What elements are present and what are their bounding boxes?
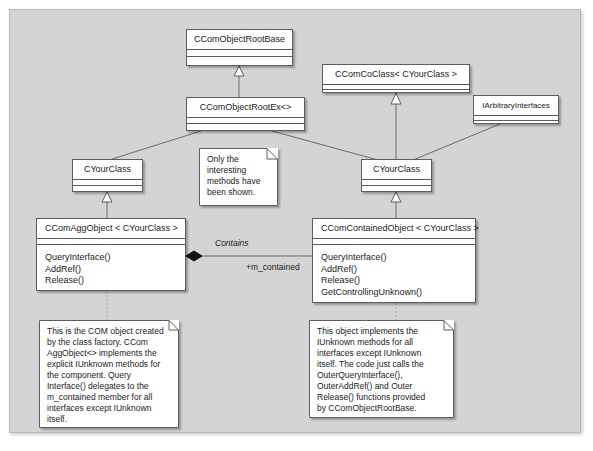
note-line: Only the [207,154,271,165]
note-line: AggObject<> implements the [47,348,172,359]
note-line: by the class factory. CCom [47,337,172,348]
note-ccomaggobject-description[interactable]: This is the COM object created by the cl… [39,320,179,428]
class-name: IArbitraryInterfaces [474,96,558,115]
class-name: CComObjectRootBase [187,30,292,49]
operation: Release() [45,275,177,287]
class-name: CYourClass [73,160,142,179]
note-line: methods have [207,176,271,187]
note-text: This is the COM object created by the cl… [39,320,179,431]
class-box-iarbitraryinterfaces[interactable]: IArbitraryInterfaces [473,95,559,124]
operation: QueryInterface() [45,252,177,264]
class-name: CComContainedObject < CYourClass > [313,219,475,238]
class-box-ccomobjectrootex[interactable]: CComObjectRootEx<> [186,97,305,131]
association-name-label: Contains [215,238,249,248]
class-operations: QueryInterface() AddRef() Release() GetC… [313,245,475,305]
note-line: the component. Query [47,370,172,381]
operation: GetControllingUnknown() [321,287,467,299]
class-box-ccomaggobject[interactable]: CComAggObject < CYourClass > QueryInterf… [36,218,186,291]
class-separator [323,89,469,90]
note-line: explicit IUnknown methods for [47,359,172,370]
note-line: OuterAddRef() and Outer [317,381,447,392]
class-box-cyourclass-right[interactable]: CYourClass [361,159,432,192]
note-line: been shown. [207,187,271,198]
association-role-label: +m_contained [246,262,300,272]
note-line: interesting [207,165,271,176]
class-separator [187,123,304,124]
operation: AddRef() [321,264,467,276]
note-line: interfaces except IUnknown [317,348,447,359]
note-line: by CComObjectRootBase. [317,403,447,414]
class-separator [362,185,431,186]
note-only-interesting-methods[interactable]: Only the interesting methods have been s… [199,148,278,206]
class-name: CComObjectRootEx<> [187,98,304,117]
note-line: interfaces except IUnknown [47,403,172,414]
class-box-ccomcoclass[interactable]: CComCoClass< CYourClass > [322,64,470,93]
note-line: Release() functions provided [317,392,447,403]
note-line: OuterQueryInterface(), [317,370,447,381]
class-box-ccomobjectrootbase[interactable]: CComObjectRootBase [186,29,293,66]
operation: Release() [321,275,467,287]
class-separator [187,56,292,57]
note-text: Only the interesting methods have been s… [199,148,278,204]
note-line: This object implements the [317,326,447,337]
class-operations: QueryInterface() AddRef() Release() [37,245,185,294]
operation: QueryInterface() [321,252,467,264]
class-box-ccomcontainedobject[interactable]: CComContainedObject < CYourClass > Query… [312,218,476,303]
class-name: CComCoClass< CYourClass > [323,65,469,84]
note-text: This object implements the IUnknown meth… [309,320,454,420]
class-separator [474,120,558,121]
note-line: Interface() delegates to the [47,381,172,392]
note-line: IUnknown methods for all [317,337,447,348]
note-line: m_contained member for all [47,392,172,403]
class-separator [73,185,142,186]
note-line: itself. [47,414,172,425]
note-line: This is the COM object created [47,326,172,337]
class-box-cyourclass-left[interactable]: CYourClass [72,159,143,192]
class-name: CComAggObject < CYourClass > [37,219,185,238]
note-line: itself. The code just calls the [317,359,447,370]
class-name: CYourClass [362,160,431,179]
operation: AddRef() [45,264,177,276]
note-ccomcontainedobject-description[interactable]: This object implements the IUnknown meth… [309,320,454,418]
